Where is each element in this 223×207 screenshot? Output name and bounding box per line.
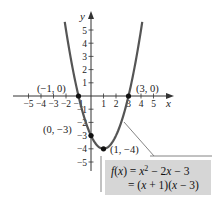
y-tick-label: 4 — [82, 39, 87, 49]
y-axis-arrow-icon — [88, 11, 94, 19]
y-tick-label: 2 — [82, 65, 87, 75]
x-tick-label: −3 — [48, 99, 58, 109]
parabola-chart: x −5−4−3−2−112345 y −5−4−3−2−112345 f(x)… — [0, 0, 223, 207]
x-tick-label: −4 — [36, 99, 46, 109]
point-x-intercept-right — [126, 93, 131, 98]
y-tick-label: −4 — [77, 144, 87, 154]
x-tick-label: 4 — [139, 99, 144, 109]
equation-line-2: = (x + 1)(x − 3) — [128, 179, 199, 192]
y-tick-label: −5 — [77, 158, 87, 168]
y-tick-label: 3 — [82, 52, 87, 62]
point-x-intercept-left — [76, 93, 81, 98]
x-tick-label: −5 — [23, 99, 33, 109]
y-tick-label: 5 — [82, 26, 87, 36]
y-tick-label: 1 — [82, 78, 87, 88]
label-point-neg1-0: (−1, 0) — [37, 83, 66, 95]
x-tick-label: −2 — [61, 99, 71, 109]
x-tick-label: 1 — [101, 99, 106, 109]
x-tick-label: 2 — [114, 99, 119, 109]
y-tick-label: −3 — [77, 131, 87, 141]
point-y-intercept — [88, 133, 93, 138]
x-tick-label: 5 — [151, 99, 156, 109]
label-point-1-neg4: (1, −4) — [110, 144, 139, 156]
label-point-0-neg3: (0, −3) — [43, 124, 72, 136]
x-axis-label: x — [165, 97, 171, 109]
y-axis-label: y — [79, 10, 85, 22]
equation-line-1: f(x) = x2 − 2x − 3 — [111, 164, 190, 178]
point-vertex — [101, 146, 106, 151]
label-point-3-0: (3, 0) — [136, 83, 159, 95]
